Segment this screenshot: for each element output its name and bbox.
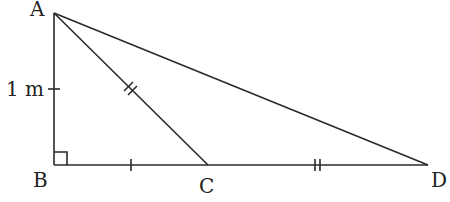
segment-ad xyxy=(54,13,428,165)
ab-length-label: 1 m xyxy=(6,77,44,101)
point-b-label: B xyxy=(33,168,48,192)
point-a-label: A xyxy=(29,0,45,21)
triangle-diagram: A B C D 1 m xyxy=(0,0,450,202)
point-c-label: C xyxy=(199,174,214,198)
point-d-label: D xyxy=(431,168,447,192)
segment-ac xyxy=(54,13,208,165)
right-angle-mark xyxy=(54,152,67,165)
